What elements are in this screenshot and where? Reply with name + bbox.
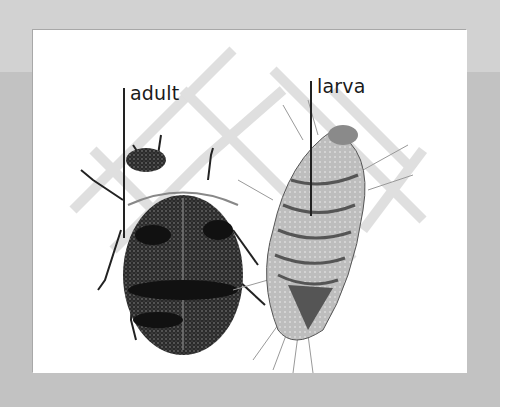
larva-label: larva <box>317 75 366 97</box>
adult-label: adult <box>130 82 179 104</box>
illustration-panel: adult larva <box>33 30 467 373</box>
larva-leader-line <box>310 81 312 216</box>
insect-illustration <box>33 30 467 373</box>
adult-leader-line <box>123 88 125 238</box>
